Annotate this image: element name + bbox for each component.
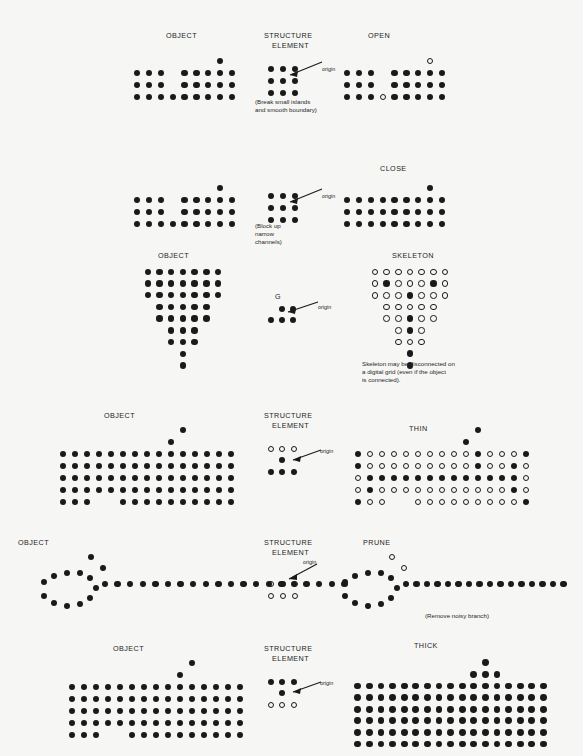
dot-filled xyxy=(72,475,78,481)
dot-filled xyxy=(84,499,90,505)
dot-filled xyxy=(158,94,164,100)
dot-filled xyxy=(528,706,535,713)
dot-filled xyxy=(355,451,362,458)
dot-filled xyxy=(177,684,183,690)
dot-filled xyxy=(482,694,489,701)
dot-filled xyxy=(93,696,99,702)
dot-filled xyxy=(205,209,211,215)
grid-object-row4 xyxy=(57,424,237,508)
dot-filled xyxy=(191,269,197,275)
dot-filled xyxy=(354,717,361,724)
dot-filled xyxy=(180,499,186,505)
dot-filled xyxy=(280,90,286,96)
dot-filled xyxy=(407,315,414,322)
dot-filled xyxy=(134,209,140,215)
dot-filled xyxy=(482,717,489,724)
dot-filled xyxy=(494,683,501,690)
dot-filled xyxy=(366,741,373,748)
dot-filled xyxy=(355,463,362,470)
dot-filled xyxy=(540,706,547,713)
dot-open xyxy=(427,499,434,506)
dot-filled xyxy=(391,70,397,76)
dot-filled xyxy=(168,487,174,493)
dot-filled xyxy=(439,221,445,227)
dot-open xyxy=(380,94,386,100)
dot-filled xyxy=(225,732,231,738)
dot-filled xyxy=(105,684,111,690)
dot-filled xyxy=(292,90,298,96)
dot-filled xyxy=(229,197,235,203)
dot-filled xyxy=(120,499,126,505)
dot-filled xyxy=(447,729,454,736)
grid-object-row6 xyxy=(66,657,246,741)
dot-filled xyxy=(158,209,164,215)
dot-open xyxy=(463,463,470,470)
dot-open xyxy=(383,304,390,311)
caption-close-line3: channels) xyxy=(255,238,282,246)
dot-open xyxy=(499,499,506,506)
dot-open xyxy=(395,280,402,287)
dot-open xyxy=(292,593,298,599)
dot-filled xyxy=(132,499,138,505)
dot-filled xyxy=(165,732,171,738)
dot-open xyxy=(427,58,433,64)
dot-filled xyxy=(134,82,140,88)
dot-open xyxy=(367,451,374,458)
dot-filled xyxy=(201,720,207,726)
dot-filled xyxy=(141,708,147,714)
label-object-row4: OBJECT xyxy=(104,411,135,420)
dot-open xyxy=(442,292,449,299)
dot-filled xyxy=(366,717,373,724)
dot-filled xyxy=(344,70,350,76)
dot-filled xyxy=(192,463,198,469)
dot-open xyxy=(395,292,402,299)
dot-filled xyxy=(401,694,408,701)
origin-arrow-row3 xyxy=(278,300,326,320)
dot-filled xyxy=(228,463,234,469)
dot-filled xyxy=(459,741,466,748)
dot-filled xyxy=(439,82,445,88)
dot-filled xyxy=(60,451,66,457)
dot-filled xyxy=(168,439,174,445)
dot-filled xyxy=(470,683,477,690)
dot-filled xyxy=(217,94,223,100)
dot-filled xyxy=(459,717,466,724)
dot-filled xyxy=(191,339,197,345)
dot-filled xyxy=(180,269,186,275)
dot-filled xyxy=(356,70,362,76)
dot-filled xyxy=(216,475,222,481)
dot-open xyxy=(487,463,494,470)
dot-open xyxy=(372,292,379,299)
dot-filled xyxy=(494,706,501,713)
dot-filled xyxy=(228,451,234,457)
dot-filled xyxy=(237,720,243,726)
dot-filled xyxy=(191,304,197,310)
grid-skeleton-result xyxy=(369,266,451,371)
dot-filled xyxy=(494,729,501,736)
dot-filled xyxy=(181,70,187,76)
dot-open xyxy=(427,463,434,470)
dot-filled xyxy=(356,94,362,100)
dot-filled xyxy=(436,717,443,724)
dot-filled xyxy=(60,475,66,481)
dot-open xyxy=(415,451,422,458)
dot-filled xyxy=(108,463,114,469)
dot-filled xyxy=(129,684,135,690)
dot-filled xyxy=(81,708,87,714)
dot-filled xyxy=(180,304,186,310)
dot-filled xyxy=(268,66,274,72)
dot-filled xyxy=(217,82,223,88)
dot-open xyxy=(407,269,414,276)
dot-filled xyxy=(192,487,198,493)
grid-object-row1 xyxy=(131,55,238,103)
dot-filled xyxy=(217,197,223,203)
dot-filled xyxy=(389,741,396,748)
dot-filled xyxy=(412,683,419,690)
dot-open xyxy=(475,487,482,494)
dot-filled xyxy=(168,269,174,275)
dot-filled xyxy=(407,350,414,357)
dot-filled xyxy=(168,327,174,333)
grid-thick-result xyxy=(352,657,549,750)
dot-filled xyxy=(229,82,235,88)
label-object-row6: OBJECT xyxy=(113,644,144,653)
